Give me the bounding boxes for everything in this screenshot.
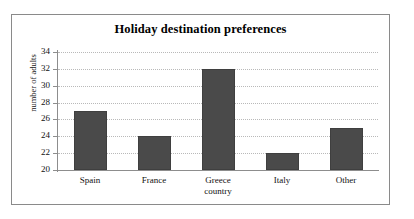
y-tick-label: 28 [22, 98, 50, 107]
y-tick-mark [53, 69, 58, 70]
x-axis-line [57, 170, 379, 171]
y-tick-label: 26 [22, 114, 50, 123]
y-tick-label: 24 [22, 131, 50, 140]
bars-layer [58, 52, 378, 170]
bar [138, 136, 171, 170]
x-axis-label: country [168, 186, 268, 196]
y-tick-mark [53, 136, 58, 137]
bar [202, 69, 235, 170]
y-tick-label: 20 [22, 165, 50, 174]
y-tick-label: 30 [22, 81, 50, 90]
chart-title: Holiday destination preferences [11, 22, 390, 37]
y-tick-label: 34 [22, 47, 50, 56]
x-category-label: Other [306, 175, 386, 185]
y-tick-mark [53, 103, 58, 104]
y-tick-mark [53, 170, 58, 171]
bar [74, 111, 107, 170]
y-tick-mark [53, 119, 58, 120]
y-tick-mark [53, 86, 58, 87]
plot-area [58, 52, 378, 170]
figure: Holiday destination preferences number o… [0, 0, 414, 219]
y-tick-label: 22 [22, 148, 50, 157]
y-tick-mark [53, 153, 58, 154]
y-tick-mark [53, 52, 58, 53]
bar [330, 128, 363, 170]
bar [266, 153, 299, 170]
y-tick-label: 32 [22, 64, 50, 73]
